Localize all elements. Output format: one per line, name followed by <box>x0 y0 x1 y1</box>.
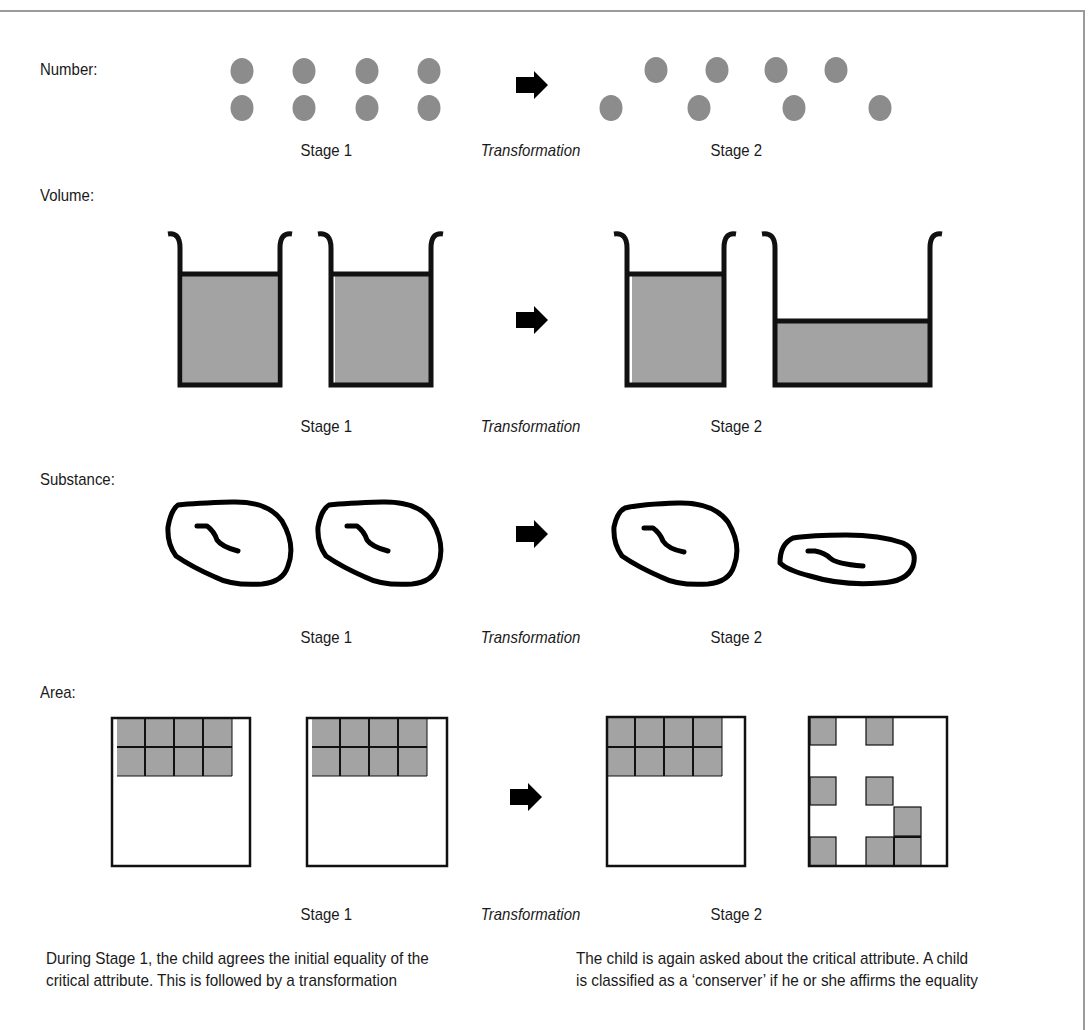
number-stage2-dots <box>600 57 892 121</box>
substance-clay-shapes <box>168 502 914 584</box>
right-paragraph-line-2: is classified as a ‘conserver’ if he or … <box>576 970 978 992</box>
left-paragraph: During Stage 1, the child agrees the ini… <box>46 948 429 992</box>
left-paragraph-line-1: During Stage 1, the child agrees the ini… <box>46 948 429 970</box>
number-arrow-icon <box>516 71 548 99</box>
area-arrow-icon <box>510 783 542 811</box>
substance-arrow-icon <box>516 520 548 548</box>
volume-beakers <box>168 234 942 385</box>
right-paragraph: The child is again asked about the criti… <box>576 948 978 992</box>
number-stage1-dots <box>231 58 441 121</box>
right-paragraph-line-1: The child is again asked about the criti… <box>576 948 978 970</box>
volume-arrow-icon <box>516 306 548 334</box>
left-paragraph-line-2: critical attribute. This is followed by … <box>46 970 429 992</box>
